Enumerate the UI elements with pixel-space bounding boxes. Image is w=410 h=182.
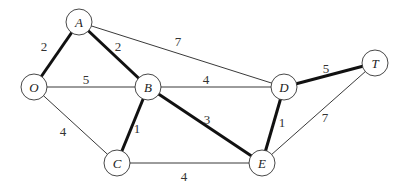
node-O: O (21, 74, 47, 100)
node-B: B (135, 74, 161, 100)
weights-layer: 227545413174 (41, 34, 330, 182)
edge-weight-A-D: 7 (175, 34, 182, 49)
node-label: T (371, 56, 379, 71)
edge-weight-E-T: 7 (322, 110, 329, 125)
node-C: C (104, 150, 130, 176)
node-label: O (29, 80, 39, 95)
node-D: D (271, 74, 297, 100)
edge-weight-O-C: 4 (60, 124, 67, 139)
node-label: C (113, 156, 122, 171)
edge-A-D (79, 22, 284, 87)
node-T: T (362, 50, 388, 76)
edge-A-B (79, 22, 148, 87)
edge-weight-C-E: 4 (181, 169, 188, 182)
node-label: A (74, 15, 83, 30)
edge-weight-B-E: 3 (204, 112, 211, 127)
node-label: E (257, 156, 266, 171)
edge-weight-D-T: 5 (323, 61, 330, 76)
graph-diagram: 227545413174 AOBDTCE (0, 0, 410, 182)
node-label: D (278, 80, 289, 95)
edge-weight-B-C: 1 (134, 121, 141, 136)
edge-weight-D-E: 1 (279, 115, 286, 130)
edge-weight-A-B: 2 (115, 39, 122, 54)
edge-weight-B-D: 4 (203, 72, 210, 87)
node-A: A (66, 9, 92, 35)
edge-weight-O-A: 2 (41, 39, 48, 54)
node-label: B (144, 80, 152, 95)
edges-layer (34, 22, 375, 163)
nodes-layer: AOBDTCE (21, 9, 388, 176)
edge-weight-O-B: 5 (83, 72, 90, 87)
node-E: E (249, 150, 275, 176)
edge-O-C (34, 87, 117, 163)
